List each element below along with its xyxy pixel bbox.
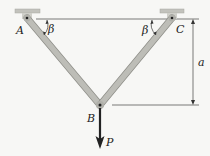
dimension-a [191, 19, 195, 105]
point-label-a: A [15, 24, 24, 37]
angle-label-left: β [47, 23, 54, 36]
point-label-c: C [176, 23, 185, 36]
angle-label-right: β [141, 24, 148, 37]
dimension-label: a [198, 56, 205, 69]
angle-beta-right [151, 20, 157, 35]
load-label: P [105, 136, 114, 149]
support-plate-a [15, 9, 40, 13]
support-plate-c [160, 9, 184, 13]
point-label-b: B [86, 112, 95, 125]
truss-diagram: a β β P A C B [0, 0, 210, 156]
